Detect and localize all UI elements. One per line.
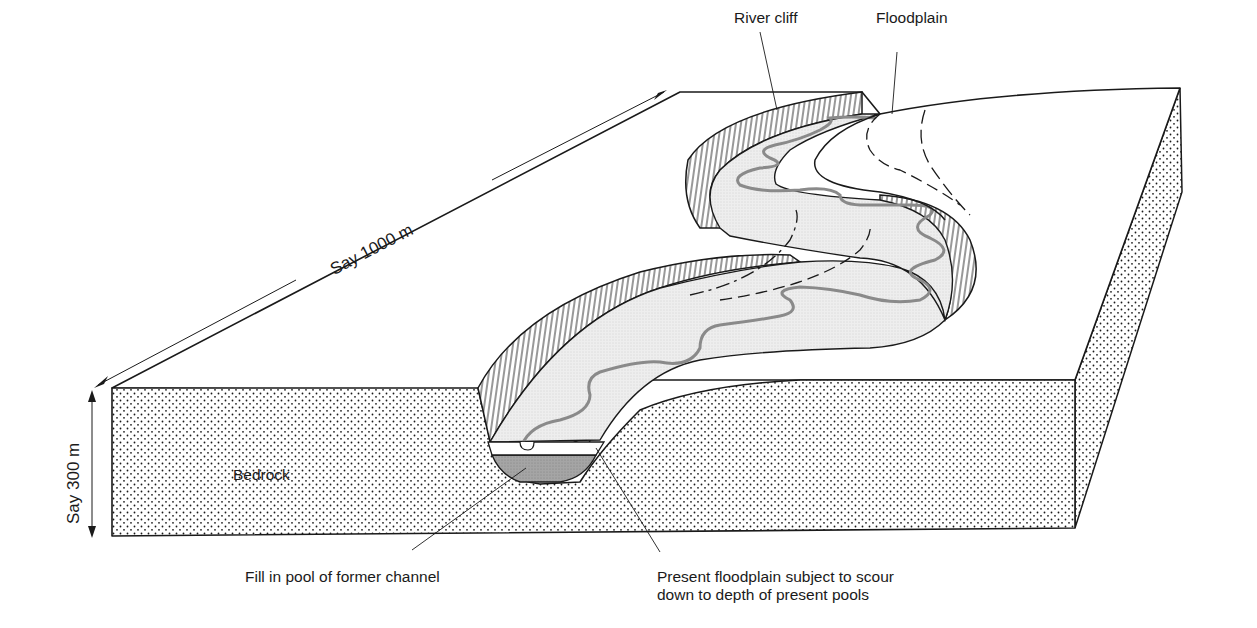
depth-dimension-label: Say 300 m — [64, 443, 84, 524]
label-floodplain: Floodplain — [876, 8, 948, 27]
label-present-floodplain-2: down to depth of present pools — [657, 585, 869, 604]
label-present-floodplain-1: Present floodplain subject to scour — [657, 567, 894, 586]
leader-floodplain — [892, 52, 897, 114]
river-valley-block-diagram — [0, 0, 1257, 628]
depth-dimension-arrow — [88, 390, 96, 538]
label-bedrock: Bedrock — [233, 465, 290, 484]
present-floodplain-layer — [488, 442, 604, 455]
present-pool-notch — [520, 442, 534, 450]
label-fill: Fill in pool of former channel — [245, 567, 440, 586]
label-river-cliff: River cliff — [734, 8, 797, 27]
